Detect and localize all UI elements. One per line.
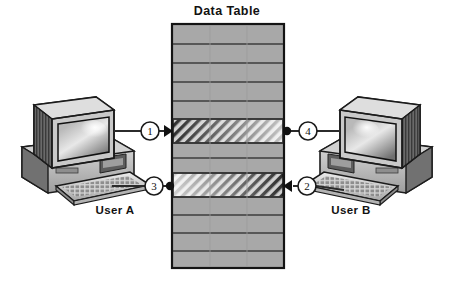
step-4-dot-icon — [283, 127, 291, 135]
step-marker-3[interactable]: 3 — [145, 177, 163, 195]
table-row-hatched-a[interactable] — [173, 119, 283, 143]
diagram-svg: 1 4 3 2 — [0, 0, 454, 283]
step-3-dot-icon — [166, 182, 174, 190]
step-marker-3-label: 3 — [151, 180, 157, 192]
diagram-canvas: Data Table User A User B — [0, 0, 454, 283]
step-marker-1[interactable]: 1 — [141, 122, 159, 140]
step-marker-1-label: 1 — [147, 125, 153, 137]
step-marker-2[interactable]: 2 — [298, 177, 316, 195]
computer-user-a[interactable] — [22, 97, 150, 205]
step-marker-4-label: 4 — [305, 125, 311, 137]
step-marker-2-label: 2 — [304, 180, 310, 192]
data-table[interactable] — [172, 24, 284, 268]
step-marker-4[interactable]: 4 — [299, 122, 317, 140]
table-row-hatched-b[interactable] — [173, 173, 283, 197]
computer-user-b[interactable] — [304, 97, 432, 205]
